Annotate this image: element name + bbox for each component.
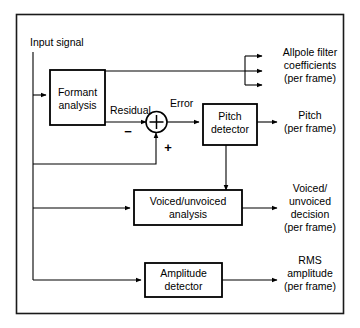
output-allpole-line1: Allpole filter <box>283 46 338 58</box>
block-formant-analysis-label-line1: Formant <box>58 86 97 98</box>
output-voiced-line4: (per frame) <box>284 221 336 233</box>
output-allpole-line2: coefficients <box>284 59 336 71</box>
output-rms-line1: RMS <box>298 254 321 266</box>
output-pitch-line1: Pitch <box>298 109 322 121</box>
label-minus-sign: − <box>124 124 132 139</box>
wire-feedback-to-summer <box>33 133 156 164</box>
block-diagram-figure: Formant analysis Pitch detector Voiced/u… <box>0 0 360 328</box>
output-voiced-line3: decision <box>291 208 330 220</box>
block-pitch-detector-label-line1: Pitch <box>218 110 242 122</box>
output-allpole-line3: (per frame) <box>284 72 336 84</box>
label-plus-sign: + <box>164 140 172 155</box>
output-pitch-line2: (per frame) <box>284 122 336 134</box>
block-amplitude-detector-label-line2: detector <box>165 280 203 292</box>
output-voiced-line1: Voiced/ <box>293 182 328 194</box>
block-pitch-detector-label-line2: detector <box>211 123 249 135</box>
label-residual: Residual <box>110 104 151 116</box>
output-voiced-line2: unvoiced <box>289 195 331 207</box>
diagram-canvas: Formant analysis Pitch detector Voiced/u… <box>0 0 360 328</box>
block-voiced-unvoiced-analysis-label-line1: Voiced/unvoiced <box>150 195 227 207</box>
block-amplitude-detector-label-line1: Amplitude <box>160 267 207 279</box>
label-error: Error <box>170 97 194 109</box>
label-input-signal: Input signal <box>30 36 84 48</box>
block-formant-analysis-label-line2: analysis <box>59 99 97 111</box>
block-voiced-unvoiced-analysis-label-line2: analysis <box>169 208 207 220</box>
output-rms-line3: (per frame) <box>284 280 336 292</box>
output-rms-line2: amplitude <box>287 267 333 279</box>
